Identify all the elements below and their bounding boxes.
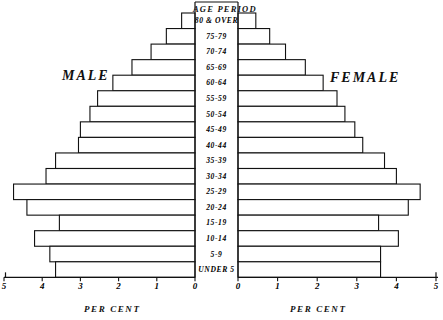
right-tick-label-4: 4: [394, 281, 399, 291]
left-tick-label-3: 3: [78, 281, 83, 291]
age-period-label: 65-69: [195, 60, 238, 76]
left-tick-label-2: 2: [116, 281, 121, 291]
age-period-label: 50-54: [195, 106, 238, 122]
left-tick-label-1: 1: [155, 281, 160, 291]
left-tick-label-0: 0: [193, 281, 198, 291]
age-period-label: 40-44: [195, 137, 238, 153]
population-pyramid-chart: MALE FEMALE AGE PERIOD PER CENT PER CENT…: [0, 0, 443, 320]
right-tick-label-1: 1: [275, 281, 280, 291]
age-period-label: 15-19: [195, 215, 238, 231]
left-tick-label-5: 5: [2, 281, 7, 291]
age-period-label: 35-39: [195, 153, 238, 169]
age-period-label: UNDER 5: [195, 262, 238, 278]
age-period-label: 30-34: [195, 169, 238, 185]
age-period-label: 10-14: [195, 231, 238, 247]
age-period-label: 25-29: [195, 184, 238, 200]
age-period-label: 5-9: [195, 246, 238, 262]
right-tick-label-2: 2: [315, 281, 320, 291]
age-period-label: 75-79: [195, 29, 238, 45]
age-period-label: 45-49: [195, 122, 238, 138]
right-axis-title: PER CENT: [290, 304, 347, 314]
age-period-label: 60-64: [195, 75, 238, 91]
female-side-label: FEMALE: [330, 70, 400, 86]
age-period-label: 70-74: [195, 44, 238, 60]
age-period-label: 55-59: [195, 91, 238, 107]
right-tick-label-3: 3: [355, 281, 360, 291]
left-tick-label-4: 4: [40, 281, 45, 291]
right-tick-label-0: 0: [236, 281, 241, 291]
age-period-label: 20-24: [195, 200, 238, 216]
right-tick-label-5: 5: [434, 281, 439, 291]
left-axis-title: PER CENT: [84, 304, 141, 314]
male-side-label: MALE: [62, 68, 110, 84]
age-period-label: 80 & OVER: [195, 13, 238, 29]
